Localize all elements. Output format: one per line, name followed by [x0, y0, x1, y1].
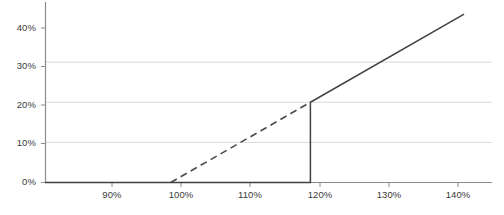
chart-plot-area — [0, 0, 504, 215]
x-tick-label-3: 120% — [295, 189, 345, 200]
x-tick-label-4: 130% — [364, 189, 414, 200]
y-tick-label-1: 10% — [2, 137, 36, 148]
x-tick-label-0: 90% — [87, 189, 137, 200]
chart-container: 40% 30% 20% 10% 0% 90% 100% 110% 120% 13… — [0, 0, 504, 215]
y-tick-label-0: 0% — [2, 176, 36, 187]
chart-svg — [0, 0, 504, 215]
y-tick-label-4: 40% — [2, 22, 36, 33]
y-tick-label-3: 30% — [2, 60, 36, 71]
y-axis-ticks — [41, 28, 45, 183]
x-tick-label-1: 100% — [156, 189, 206, 200]
gridlines — [45, 62, 492, 182]
y-tick-label-2: 20% — [2, 99, 36, 110]
x-tick-label-5: 140% — [433, 189, 483, 200]
series-actual-payout — [45, 14, 464, 182]
axis-spines — [45, 2, 492, 183]
x-tick-label-2: 110% — [225, 189, 275, 200]
